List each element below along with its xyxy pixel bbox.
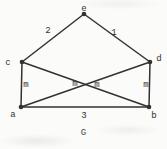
edge-e-d xyxy=(84,14,150,62)
figure-caption: G xyxy=(0,128,167,138)
vertex-label-b: b xyxy=(151,111,156,121)
edge-label-d-b: m xyxy=(143,80,148,90)
vertex-c xyxy=(20,60,25,65)
edge-label-c-a: m xyxy=(23,80,28,90)
edge-d-b xyxy=(149,62,150,107)
vertex-label-a: a xyxy=(10,110,16,120)
vertex-label-d: d xyxy=(156,54,161,64)
graph-figure: 21mmmm3ecdab G xyxy=(0,0,167,149)
edge-label-c-e: 2 xyxy=(45,26,50,36)
vertex-a xyxy=(19,105,24,110)
vertex-b xyxy=(147,105,152,110)
vertex-label-e: e xyxy=(81,4,86,14)
edge-label-e-d: 1 xyxy=(111,28,116,38)
edge-c-a xyxy=(21,62,22,107)
edge-label-a-d: m xyxy=(94,80,99,90)
edge-c-e xyxy=(22,14,84,62)
vertex-d xyxy=(148,60,153,65)
vertex-label-c: c xyxy=(5,58,10,68)
edge-label-a-b: 3 xyxy=(81,111,86,121)
graph-drawing: 21mmmm3ecdab xyxy=(0,0,167,149)
